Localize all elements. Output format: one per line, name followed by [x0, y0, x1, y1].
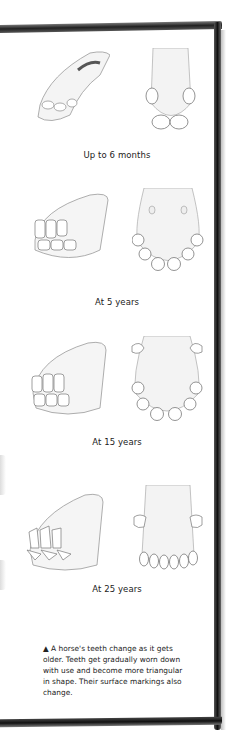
- stage-caption: At 15 years: [0, 437, 234, 447]
- jaw-side-sketch-15yr: [28, 338, 108, 420]
- stage-caption: At 5 years: [0, 297, 234, 307]
- incisors-front-sketch-15yr: [130, 336, 204, 428]
- caption-note: ▲ A horse's teeth change as it gets olde…: [43, 643, 183, 698]
- incisors-front-sketch-5yr: [132, 188, 204, 280]
- triangle-marker-icon: ▲: [43, 644, 49, 653]
- stage-caption: Up to 6 months: [0, 150, 234, 160]
- note-text: A horse's teeth change as it gets older.…: [43, 644, 182, 697]
- frame-right-border: [214, 22, 221, 730]
- jaw-side-sketch-young: [30, 45, 110, 130]
- incisors-front-sketch-young: [143, 48, 198, 136]
- jaw-side-sketch-25yr: [25, 490, 105, 575]
- frame-shadow: [221, 30, 226, 730]
- frame-bottom-border: [0, 717, 222, 727]
- incisors-front-sketch-25yr: [132, 485, 204, 575]
- frame-top-border: [0, 21, 222, 33]
- stage-caption: At 25 years: [0, 584, 234, 594]
- adjacent-page-edge: [0, 455, 6, 495]
- jaw-side-sketch-5yr: [30, 190, 110, 265]
